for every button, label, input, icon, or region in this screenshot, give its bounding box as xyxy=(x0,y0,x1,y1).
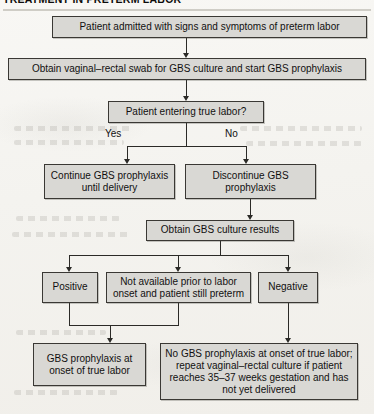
node-no-gbs-at-onset-label: No GBS prophylaxis at onset of true labo… xyxy=(161,348,357,396)
node-admission: Patient admitted with signs and symptoms… xyxy=(52,16,367,38)
ghost-text-row xyxy=(14,140,124,145)
ghost-text-row xyxy=(240,126,362,131)
ghost-text-row xyxy=(246,141,362,146)
node-no-gbs-at-onset: No GBS prophylaxis at onset of true labo… xyxy=(160,343,358,400)
flowchart-page: TREATMENT IN PRETERM LABOR Patient admit… xyxy=(0,0,374,414)
node-not-available-label: Not available prior to labor onset and p… xyxy=(107,276,250,300)
node-discontinue-prophylaxis-label: Discontinue GBS prophylaxis xyxy=(186,170,315,194)
node-culture-results: Obtain GBS culture results xyxy=(146,220,294,241)
branch-label-yes: Yes xyxy=(105,128,121,139)
ghost-text-row xyxy=(16,216,120,221)
node-culture-results-label: Obtain GBS culture results xyxy=(157,224,283,237)
connector-culture-stem xyxy=(220,241,221,255)
connector-decision-stem xyxy=(186,123,187,146)
node-positive: Positive xyxy=(42,272,98,303)
node-negative: Negative xyxy=(258,272,318,303)
node-swab: Obtain vaginal–rectal swab for GBS cultu… xyxy=(8,58,366,80)
connector-culture-split-bar xyxy=(69,255,289,256)
page-title-text: TREATMENT IN PRETERM LABOR xyxy=(3,0,243,6)
ghost-text-row xyxy=(12,232,130,237)
node-discontinue-prophylaxis: Discontinue GBS prophylaxis xyxy=(185,164,316,199)
node-positive-label: Positive xyxy=(48,281,91,294)
connector-merge-bar xyxy=(69,325,179,326)
node-not-available: Not available prior to labor onset and p… xyxy=(106,272,251,303)
node-negative-label: Negative xyxy=(264,281,311,294)
node-decision-label: Patient entering true labor? xyxy=(122,106,251,119)
connector-decision-split-bar xyxy=(127,146,247,147)
branch-label-no: No xyxy=(225,128,238,139)
connector-positive-merge-drop xyxy=(69,303,70,325)
connector-negative-to-no-gbs xyxy=(288,303,289,340)
node-continue-prophylaxis: Continue GBS prophylaxis until delivery xyxy=(44,164,175,199)
node-decision-true-labor: Patient entering true labor? xyxy=(108,101,264,123)
node-gbs-at-onset: GBS prophylaxis at onset of true labor xyxy=(33,343,146,386)
ghost-text-row xyxy=(16,330,106,335)
title-divider xyxy=(3,9,371,11)
node-gbs-at-onset-label: GBS prophylaxis at onset of true labor xyxy=(34,353,145,377)
connector-notavailable-merge-drop xyxy=(178,303,179,325)
node-admission-label: Patient admitted with signs and symptoms… xyxy=(75,21,343,34)
node-continue-prophylaxis-label: Continue GBS prophylaxis until delivery xyxy=(45,170,174,194)
ghost-text-row xyxy=(14,390,118,395)
page-title: TREATMENT IN PRETERM LABOR xyxy=(3,0,243,6)
node-swab-label: Obtain vaginal–rectal swab for GBS cultu… xyxy=(28,63,346,76)
